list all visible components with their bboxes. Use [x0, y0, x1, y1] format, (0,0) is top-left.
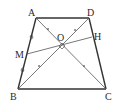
- diagonal-AC: [36, 18, 106, 89]
- point-label-B: B: [10, 91, 17, 102]
- point-label-A: A: [28, 7, 36, 18]
- trapezoid-diagram: A D O H M B C: [0, 0, 120, 106]
- point-label-O: O: [57, 32, 64, 43]
- diagram-canvas: A D O H M B C: [0, 0, 120, 106]
- point-label-D: D: [87, 7, 94, 18]
- point-label-M: M: [15, 49, 24, 60]
- point-label-C: C: [105, 91, 112, 102]
- point-label-H: H: [94, 31, 101, 42]
- segment-DC: [89, 18, 106, 89]
